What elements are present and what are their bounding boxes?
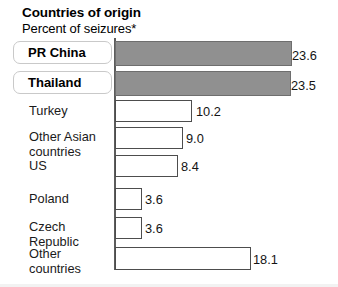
bar (115, 217, 142, 239)
bar-value-label: 18.1 (253, 252, 278, 267)
chart-figure: Countries of origin Percent of seizures*… (0, 0, 338, 287)
bar-value-label: 9.0 (186, 131, 204, 146)
bar (115, 155, 178, 177)
bar-label-highlighted: PR China (13, 41, 112, 64)
chart-subtitle: Percent of seizures* (22, 21, 322, 37)
bar-label: Other Asian (29, 129, 96, 144)
bar-value-label: 23.5 (291, 78, 316, 93)
bar (115, 188, 142, 210)
chart-title: Countries of origin (22, 5, 322, 21)
bar-label: Czech (29, 219, 65, 234)
bar (115, 100, 192, 122)
bar-label-highlighted: Thailand (13, 71, 112, 94)
bar (115, 71, 291, 96)
chart-header: Countries of origin Percent of seizures* (22, 5, 322, 37)
bar (115, 247, 251, 270)
bar-value-label: 10.2 (196, 104, 221, 119)
bar-label: Turkey (29, 103, 68, 118)
bar-value-label: 8.4 (181, 159, 199, 174)
bar-value-label: 3.6 (145, 221, 163, 236)
bar-label-line2: countries (29, 261, 81, 276)
bar (115, 127, 183, 149)
bar-value-label: 23.6 (292, 48, 317, 63)
bar-label: Other (29, 246, 61, 261)
bar-label-line2: countries (29, 144, 81, 159)
bar-chart-plot-area: PR China23.6Thailand23.5Turkey10.2Other … (0, 38, 338, 278)
bar-label: US (29, 158, 47, 173)
bar-value-label: 3.6 (145, 192, 163, 207)
bar (115, 41, 292, 66)
bar-label: Poland (29, 191, 69, 206)
